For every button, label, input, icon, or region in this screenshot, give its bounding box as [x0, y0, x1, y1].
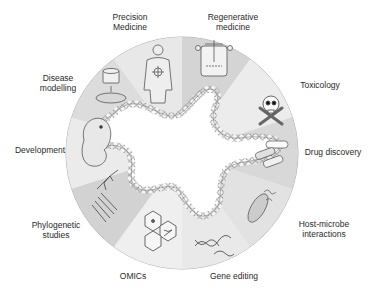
organoid-applications-diagram: Precision Medicine Regenerative medicine… — [0, 0, 372, 292]
label-development: Development — [15, 145, 65, 155]
label-toxicology: Toxicology — [300, 80, 340, 90]
label-line: Disease — [40, 73, 76, 83]
label-line: Host-microbe — [299, 219, 350, 229]
label-omics: OMICs — [120, 271, 146, 281]
label-line: modelling — [40, 83, 76, 93]
label-precision-medicine: Precision Medicine — [113, 12, 148, 32]
label-line: Regenerative — [208, 12, 259, 22]
label-disease-modelling: Disease modelling — [40, 73, 76, 93]
label-drug-discovery: Drug discovery — [305, 147, 362, 157]
label-gene-editing: Gene editing — [210, 271, 258, 281]
label-line: studies — [32, 230, 81, 240]
label-line: interactions — [299, 229, 350, 239]
label-line: Toxicology — [300, 80, 340, 90]
label-line: Gene editing — [210, 271, 258, 281]
label-line: Phylogenetic — [32, 220, 81, 230]
label-phylogenetic: Phylogenetic studies — [32, 220, 81, 240]
label-line: Medicine — [113, 22, 148, 32]
label-line: Drug discovery — [305, 147, 362, 157]
label-line: OMICs — [120, 271, 146, 281]
label-regenerative-medicine: Regenerative medicine — [208, 12, 259, 32]
label-line: medicine — [208, 22, 259, 32]
label-line: Precision — [113, 12, 148, 22]
label-line: Development — [15, 145, 65, 155]
label-host-microbe: Host-microbe interactions — [299, 219, 350, 239]
